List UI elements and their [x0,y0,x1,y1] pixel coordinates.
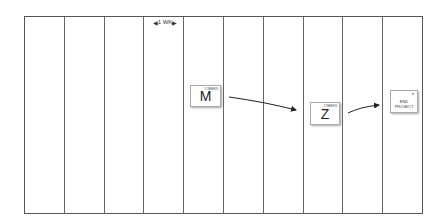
arrow-m-to-z [229,97,296,110]
arrow-z-to-end [348,105,379,113]
flow-arrows [0,0,443,224]
